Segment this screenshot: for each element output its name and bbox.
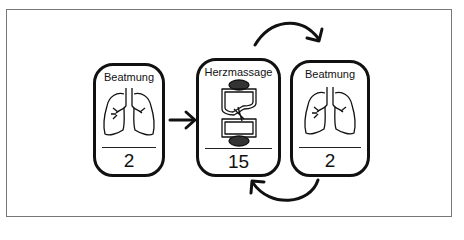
step-card-compression: Herzmassage 15: [196, 58, 281, 177]
lungs-icon: [99, 86, 159, 144]
divider: [102, 147, 156, 148]
heart-compression-icon: [214, 79, 264, 147]
divider: [299, 147, 361, 148]
curved-arrow-top-icon: [255, 23, 322, 45]
curved-arrow-bottom-icon: [251, 180, 318, 200]
step-card-ventilation-2: Beatmung 2: [290, 60, 370, 177]
step-title: Beatmung: [96, 71, 162, 83]
step-title: Beatmung: [293, 68, 367, 80]
step-count: 15: [199, 152, 278, 171]
step-count: 2: [293, 151, 367, 170]
straight-arrow-icon: [170, 112, 195, 128]
step-count: 2: [96, 151, 162, 170]
step-title: Herzmassage: [199, 66, 278, 78]
lungs-icon: [300, 85, 360, 143]
step-card-ventilation-1: Beatmung 2: [93, 63, 165, 177]
divider: [205, 148, 272, 149]
